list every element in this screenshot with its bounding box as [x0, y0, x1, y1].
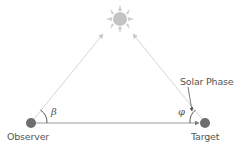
sun-observer-target-diagram: [0, 0, 241, 149]
beta-angle-arc: [41, 110, 48, 123]
phi-angle-arc: [190, 110, 196, 123]
target-label: Target: [191, 132, 219, 142]
phi-angle-label: φ: [178, 107, 185, 117]
beta-angle-label: β: [51, 107, 57, 117]
observer-label: Observer: [7, 132, 49, 142]
solar-phase-pointer: [188, 87, 192, 111]
observer-to-sun-line: [34, 34, 103, 119]
sun-icon: [106, 5, 134, 33]
solar-phase-label: Solar Phase: [180, 77, 233, 87]
target-dot: [200, 118, 210, 128]
observer-dot: [26, 118, 36, 128]
